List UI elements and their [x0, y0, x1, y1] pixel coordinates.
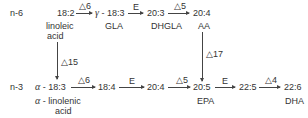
node-alpha-linolenic-name2: acid — [55, 106, 72, 116]
enzyme-n3-delta5: △5 — [174, 76, 190, 85]
node-22-6: 22:6 — [284, 82, 302, 92]
node-20-3: 20:3 — [147, 8, 165, 18]
node-gla-name: GLA — [105, 21, 123, 31]
enzyme-n6-delta6: △6 — [77, 2, 93, 11]
enzyme-n3-e2: E — [219, 77, 231, 86]
node-epa-name: EPA — [197, 96, 214, 106]
arrow-n3-1 — [71, 87, 95, 88]
enzyme-delta15: △15 — [61, 57, 78, 67]
node-alpha-18-3-text: - 18:3 — [40, 82, 66, 92]
enzyme-n3-delta4: △4 — [263, 76, 279, 85]
node-18-2-name2: acid — [47, 31, 64, 41]
arrow-n3-3 — [168, 87, 190, 88]
enzyme-n3-delta6: △6 — [76, 76, 92, 85]
enzyme-delta17: △17 — [206, 49, 223, 59]
row-label-n3: n-3 — [10, 82, 23, 92]
arrow-n3-4 — [215, 87, 235, 88]
alpha-linolenic-text: - linolenic — [40, 96, 81, 106]
node-20-5: 20:5 — [193, 82, 211, 92]
node-alpha-18-3: α - 18:3 — [35, 82, 66, 92]
node-18-2: 18:2 — [57, 8, 75, 18]
node-18-2-name: linoleic — [46, 21, 74, 31]
node-gamma-18-3: γ - 18:3 — [95, 8, 124, 18]
arrow-n3-2 — [119, 87, 144, 88]
node-20-4-aa: 20:4 — [193, 8, 211, 18]
node-gamma-18-3-text: - 18:3 — [99, 8, 125, 18]
arrow-n6-3 — [168, 13, 189, 14]
arrow-n6-2 — [128, 13, 143, 14]
node-dha-name: DHA — [285, 96, 304, 106]
node-dhgla-name: DHGLA — [151, 21, 182, 31]
enzyme-n3-e1: E — [126, 77, 138, 86]
node-18-4: 18:4 — [98, 82, 116, 92]
arrow-delta17-vertical — [202, 32, 203, 81]
enzyme-n6-delta5: △5 — [172, 2, 188, 11]
row-label-n6: n-6 — [10, 8, 23, 18]
node-alpha-linolenic-name: α - linolenic — [35, 96, 81, 106]
arrow-delta15-vertical — [57, 42, 58, 79]
node-20-4: 20:4 — [147, 82, 165, 92]
node-aa-name: AA — [198, 21, 210, 31]
node-22-5: 22:5 — [239, 82, 257, 92]
arrow-n3-5 — [259, 87, 280, 88]
arrow-n6-1 — [76, 13, 92, 14]
